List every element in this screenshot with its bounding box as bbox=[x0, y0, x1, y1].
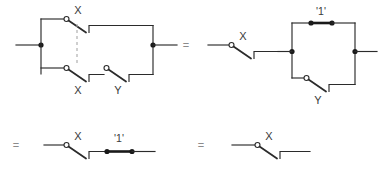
stage-4-group: X bbox=[232, 130, 310, 159]
switch-x-stage4: X bbox=[255, 130, 310, 159]
switching-circuit-diagram: X X Y bbox=[0, 0, 388, 171]
switch-x-bottom: X bbox=[64, 66, 104, 97]
switch-x-top-right-terminal bbox=[89, 26, 153, 33]
switch-y-stage1-right-terminal bbox=[129, 75, 153, 82]
switch-x-top: X bbox=[64, 4, 153, 33]
switch-x-stage3-label: X bbox=[74, 130, 82, 142]
switch-x-stage2-right-terminal bbox=[254, 52, 278, 59]
switch-x-stage3-blade-icon bbox=[69, 147, 87, 159]
switch-y-stage1-label: Y bbox=[114, 84, 122, 96]
circuit-canvas: X X Y bbox=[0, 0, 388, 171]
stage-3-group: X '1' bbox=[44, 130, 155, 159]
short-one-stage3: '1' bbox=[104, 132, 155, 154]
short-one-stage3-left-dot bbox=[104, 149, 109, 154]
switch-x-bottom-label: X bbox=[74, 84, 82, 96]
switch-y-stage1-blade-icon bbox=[109, 70, 127, 82]
switch-x-stage2: X bbox=[229, 30, 278, 59]
short-one-stage2-label: '1' bbox=[316, 5, 326, 17]
switch-x-stage4-label: X bbox=[265, 130, 273, 142]
short-one-stage2-left-dot bbox=[308, 20, 313, 25]
switch-y-stage2-label: Y bbox=[314, 94, 322, 106]
switch-x-stage3-right-terminal bbox=[89, 152, 107, 159]
switch-x-stage2-blade-icon bbox=[234, 47, 252, 59]
switch-x-bottom-blade-icon bbox=[69, 70, 87, 82]
short-one-stage2: '1' bbox=[292, 5, 355, 26]
equals-sign-1: = bbox=[183, 39, 189, 51]
switch-x-stage4-blade-icon bbox=[260, 147, 278, 159]
switch-x-stage2-label: X bbox=[239, 30, 247, 42]
equals-sign-3: = bbox=[198, 139, 204, 151]
equals-sign-2: = bbox=[13, 139, 19, 151]
switch-x-stage3: X bbox=[64, 130, 107, 159]
stage-2-group: X '1' Y bbox=[208, 5, 377, 106]
switch-x-top-label: X bbox=[74, 4, 82, 16]
switch-y-stage2: Y bbox=[292, 76, 355, 107]
stage-1-group: X X Y bbox=[16, 4, 177, 96]
switch-y-stage1: Y bbox=[104, 66, 153, 97]
switch-y-stage2-blade-icon bbox=[309, 80, 327, 92]
switch-x-stage4-right-terminal bbox=[280, 152, 310, 159]
switch-x-bottom-right-terminal bbox=[89, 75, 104, 82]
short-one-stage3-label: '1' bbox=[114, 132, 124, 144]
switch-y-stage2-right-terminal bbox=[329, 85, 355, 92]
